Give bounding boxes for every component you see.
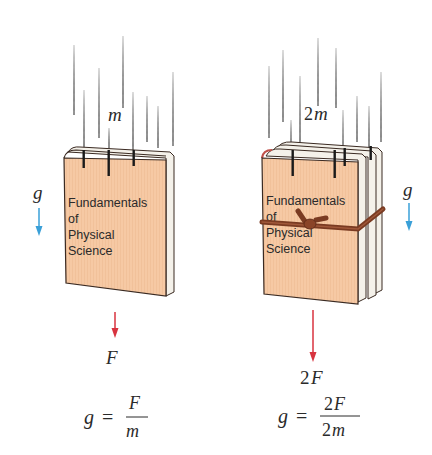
force-coef-2: 2 bbox=[300, 367, 310, 388]
book-title-line-3: Physical bbox=[266, 226, 313, 240]
equation-left: g = F m bbox=[84, 393, 148, 441]
eq-lhs-g: g bbox=[84, 406, 94, 429]
left-panel: m Fundamentals of Physical Science g bbox=[33, 36, 174, 441]
gravity-arrow-icon-right bbox=[406, 203, 413, 231]
gravity-label-right: g bbox=[403, 179, 413, 200]
eq-denominator: m bbox=[126, 421, 139, 441]
eq-equals: = bbox=[296, 405, 307, 427]
rain-drops-right bbox=[268, 38, 382, 158]
book-title-line-1: Fundamentals bbox=[266, 194, 345, 208]
eq-numerator-var: F bbox=[333, 394, 346, 414]
eq-equals: = bbox=[102, 406, 113, 428]
force-label-F: F bbox=[105, 347, 118, 368]
falling-books-diagram: m Fundamentals of Physical Science g bbox=[0, 0, 432, 455]
book-single: Fundamentals of Physical Science bbox=[64, 147, 174, 296]
mass-label-m: m bbox=[108, 104, 122, 125]
mass-coef-2: 2 bbox=[304, 104, 313, 124]
eq-lhs-g: g bbox=[278, 405, 288, 428]
book-title-line-2: of bbox=[68, 212, 79, 226]
book-title-line-4: Science bbox=[68, 244, 113, 258]
rain-drops-left bbox=[73, 36, 174, 150]
books-tied: Fundamentals of Physical Science bbox=[262, 142, 383, 304]
book-title-line-4: Science bbox=[266, 242, 311, 256]
mass-label-m: m bbox=[314, 103, 328, 124]
gravity-arrow-icon-left bbox=[36, 208, 43, 236]
force-arrow-icon-left bbox=[112, 312, 119, 338]
right-panel: 2 m Fundamentals of Physical Science bbox=[262, 38, 413, 440]
eq-numerator-coef: 2 bbox=[324, 394, 333, 414]
eq-denominator-var: m bbox=[332, 420, 345, 440]
eq-numerator: F bbox=[128, 393, 141, 413]
force-label-F: F bbox=[310, 367, 323, 388]
force-arrow-icon-right bbox=[310, 310, 317, 362]
book-title-line-1: Fundamentals bbox=[68, 196, 147, 210]
gravity-label-left: g bbox=[33, 182, 43, 203]
book-title-line-3: Physical bbox=[68, 228, 115, 242]
eq-denominator-coef: 2 bbox=[322, 420, 331, 440]
equation-right: g = 2 F 2 m bbox=[278, 394, 360, 440]
